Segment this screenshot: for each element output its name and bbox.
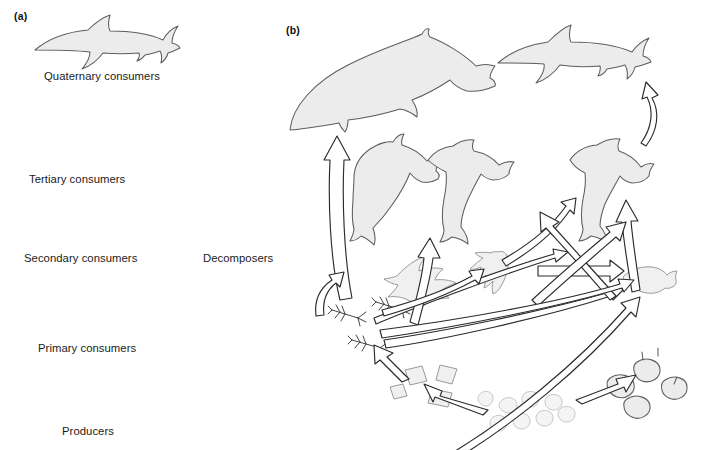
web-arrow-to-shark [641, 82, 658, 146]
web-arrow-squid-to-predatory-fish [502, 198, 576, 266]
trophic-label-tertiary-consumers: Tertiary consumers [29, 173, 125, 185]
organism-phytoplankton [478, 391, 575, 431]
web-arrow-diatoms-to-krill [374, 345, 409, 382]
trophic-label-producers: Producers [62, 425, 114, 437]
trophic-label-secondary-consumers: Secondary consumers [24, 252, 137, 264]
trophic-label-quaternary-consumers: Quaternary consumers [44, 70, 160, 82]
organism-hammerhead-shark [428, 140, 514, 244]
trophic-label-decomposers: Decomposers [203, 252, 273, 264]
organism-baleen-whale [290, 29, 495, 132]
panel-b-food-web: (b) [280, 0, 711, 450]
panel-b-graphics [280, 0, 711, 450]
panel-a-graphics [0, 0, 290, 450]
organism-dolphin [350, 134, 441, 245]
organism-shark [35, 15, 180, 69]
organism-shark [498, 25, 651, 83]
panel-a-food-chain: (a) [0, 0, 290, 450]
trophic-label-primary-consumers: Primary consumers [38, 342, 136, 354]
figure-food-chain-and-food-web: (a) [0, 0, 711, 450]
